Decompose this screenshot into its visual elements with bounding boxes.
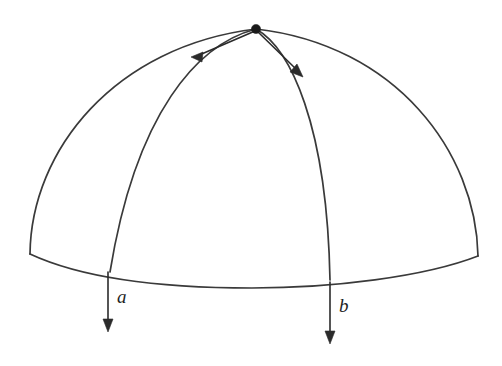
dome-diagram: a b [0,0,502,366]
tangent-arrow-right [257,31,303,77]
down-arrow-b [325,282,335,344]
down-arrow-a [103,272,113,332]
meridian-curve-left [110,29,256,272]
tangent-arrow-right-shaft [257,31,297,70]
label-a: a [117,286,127,307]
dome-base-arc [30,254,478,288]
dome-outline-left-arc [30,29,256,254]
down-arrow-a-head [103,319,113,332]
figure-canvas: a b [0,0,502,366]
apex-point [251,24,260,33]
tangent-arrow-left-head [191,52,203,62]
down-arrow-b-head [325,331,335,344]
label-b: b [339,295,349,316]
tangent-arrow-left [191,31,255,62]
